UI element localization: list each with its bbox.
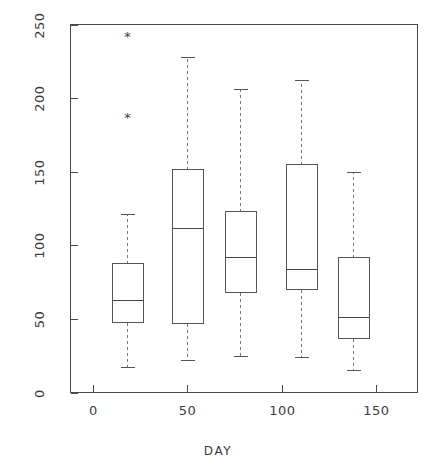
- box-day-138: [338, 173, 369, 371]
- boxplot-figure: 050100150200250 050100150 ** DAY: [0, 0, 439, 467]
- box-day-50: [172, 58, 203, 361]
- plot-frame: [71, 25, 418, 393]
- box-plots-group: [112, 58, 369, 371]
- y-tick-label-50: 50: [32, 311, 47, 329]
- outliers-group: **: [124, 29, 131, 125]
- x-tick-label-150: 150: [363, 403, 389, 418]
- outlier-marker: *: [124, 29, 131, 44]
- box-body: [338, 258, 369, 339]
- y-tick-label-100: 100: [32, 232, 47, 258]
- x-axis-tick-labels: 050100150: [89, 403, 390, 418]
- box-body: [225, 212, 256, 293]
- box-day-110: [286, 81, 317, 358]
- x-tick-label-0: 0: [89, 403, 98, 418]
- box-body: [286, 165, 317, 290]
- outlier-marker: *: [124, 110, 131, 125]
- box-body: [112, 264, 143, 323]
- box-day-18: [112, 215, 143, 368]
- x-axis-ticks: [94, 385, 377, 393]
- y-tick-label-200: 200: [32, 85, 47, 111]
- y-axis-ticks: [71, 26, 78, 394]
- x-axis-title: DAY: [204, 444, 232, 458]
- y-tick-label-250: 250: [32, 12, 47, 38]
- x-tick-label-100: 100: [269, 403, 295, 418]
- box-day-78: [225, 90, 256, 357]
- y-tick-label-0: 0: [32, 389, 47, 398]
- boxplot-canvas: 050100150200250 050100150 ** DAY: [0, 0, 439, 467]
- y-axis-tick-labels: 050100150200250: [32, 12, 47, 398]
- box-body: [172, 170, 203, 324]
- y-tick-label-150: 150: [32, 159, 47, 185]
- x-tick-label-50: 50: [179, 403, 197, 418]
